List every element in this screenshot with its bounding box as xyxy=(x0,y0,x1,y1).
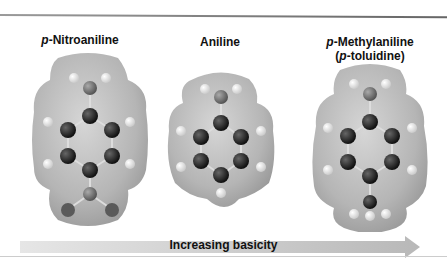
label-p-nitroaniline: p-Nitroaniline xyxy=(20,33,140,47)
label-aniline: Aniline xyxy=(180,35,260,49)
p-methylaniline-model xyxy=(310,60,430,232)
label-p-methylaniline: p-Methylaniline(p-toluidine) xyxy=(310,35,430,63)
bottom-rule xyxy=(0,256,447,257)
top-rule xyxy=(0,14,447,18)
aniline-model xyxy=(165,65,277,215)
arrow-label: Increasing basicity xyxy=(0,238,447,252)
p-nitroaniline-model xyxy=(30,50,150,230)
